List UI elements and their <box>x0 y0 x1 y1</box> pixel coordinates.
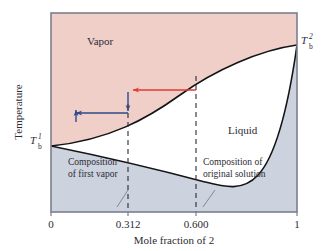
xtick-label-0312: 0.312 <box>116 218 141 230</box>
tb2-base: T <box>301 34 308 46</box>
tb1-superscript: 1 <box>38 132 42 141</box>
tb2-superscript: 2 <box>309 32 313 41</box>
liquid-region-label: Liquid <box>228 124 258 136</box>
x-axis-title: Mole fraction of 2 <box>134 234 214 246</box>
annot-left-line2: of first vapor <box>68 169 118 179</box>
xtick-label-0: 0 <box>48 218 54 230</box>
tb2-subscript: b <box>309 42 313 51</box>
tb1-subscript: b <box>38 142 42 151</box>
annot-right-line1: Composition of <box>203 157 263 167</box>
tb1-base: T <box>30 134 37 146</box>
phase-diagram-figure: Vapor Liquid T 1 b T 2 b Composition of … <box>0 0 327 251</box>
xtick-label-0600: 0.600 <box>184 218 209 230</box>
vapor-region-label: Vapor <box>87 35 114 47</box>
annot-left-line1: Composition <box>68 157 117 167</box>
phase-diagram-svg: Vapor Liquid T 1 b T 2 b Composition of … <box>0 0 327 251</box>
xtick-label-1: 1 <box>294 218 300 230</box>
y-axis-title: Temperature <box>12 84 24 140</box>
annot-right-line2: original solution <box>203 169 266 179</box>
